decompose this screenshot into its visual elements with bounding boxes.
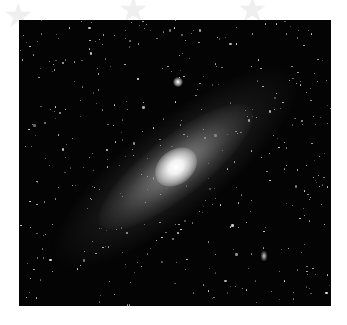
star <box>139 25 140 26</box>
star <box>327 123 328 124</box>
star <box>80 100 81 101</box>
star <box>179 55 180 56</box>
star <box>99 39 100 40</box>
star <box>106 149 107 150</box>
star <box>263 247 264 248</box>
star <box>88 27 91 30</box>
star <box>301 252 302 253</box>
star <box>271 291 272 292</box>
star <box>193 292 194 293</box>
star <box>303 45 304 46</box>
star <box>292 124 293 125</box>
star <box>193 30 194 31</box>
star <box>230 286 231 287</box>
star <box>185 269 186 270</box>
star <box>299 218 300 219</box>
star <box>242 288 243 289</box>
star <box>137 262 138 263</box>
star <box>308 30 309 31</box>
star <box>23 35 24 36</box>
star <box>315 274 316 275</box>
star <box>229 43 232 46</box>
star <box>59 112 60 113</box>
star <box>52 71 53 72</box>
star <box>290 26 291 27</box>
star <box>189 58 190 59</box>
star <box>297 169 298 170</box>
star <box>286 203 287 204</box>
star <box>69 27 70 28</box>
star <box>286 147 287 148</box>
star <box>178 224 179 225</box>
star <box>81 21 82 22</box>
star <box>35 135 36 136</box>
star <box>310 293 311 294</box>
star <box>215 272 216 273</box>
star <box>99 301 100 302</box>
star <box>303 208 304 209</box>
star <box>310 197 311 198</box>
star <box>255 280 256 281</box>
star <box>238 202 239 203</box>
star <box>91 22 92 23</box>
star <box>216 66 217 67</box>
star <box>300 84 301 85</box>
star <box>284 280 285 281</box>
star <box>317 81 318 82</box>
star <box>49 259 52 262</box>
star <box>310 100 311 101</box>
star <box>89 40 90 41</box>
star <box>199 83 200 84</box>
star <box>72 185 73 186</box>
star <box>107 124 108 125</box>
star <box>40 106 41 107</box>
star <box>203 76 204 77</box>
star <box>306 271 307 272</box>
star <box>56 34 57 35</box>
star <box>143 102 144 103</box>
star <box>306 92 307 93</box>
star <box>55 60 56 61</box>
star <box>103 34 104 35</box>
star <box>30 278 31 279</box>
star <box>327 274 328 275</box>
star <box>29 46 30 47</box>
star <box>125 264 126 265</box>
star <box>26 42 27 43</box>
star <box>77 268 78 269</box>
star <box>176 262 177 263</box>
star <box>27 263 28 264</box>
star <box>219 38 220 39</box>
star <box>293 292 294 293</box>
star <box>183 76 184 77</box>
star <box>256 302 257 303</box>
star <box>162 68 163 69</box>
star <box>105 58 106 59</box>
star <box>90 52 93 55</box>
star <box>134 272 135 273</box>
star <box>197 89 198 90</box>
star <box>258 59 259 60</box>
star <box>261 157 262 158</box>
star <box>142 21 143 22</box>
star <box>49 165 50 166</box>
star <box>172 238 175 241</box>
star <box>75 185 76 186</box>
star <box>191 33 192 34</box>
star <box>110 66 111 67</box>
star <box>31 146 32 147</box>
star <box>318 175 319 176</box>
star <box>150 30 151 31</box>
star <box>167 66 168 67</box>
star <box>312 268 313 269</box>
star <box>125 30 126 31</box>
star <box>302 124 303 125</box>
star <box>314 73 315 74</box>
star <box>309 199 310 200</box>
star <box>89 48 90 49</box>
star <box>325 292 328 295</box>
star <box>114 35 115 36</box>
star <box>329 285 330 286</box>
star <box>323 177 324 178</box>
star <box>306 266 307 267</box>
